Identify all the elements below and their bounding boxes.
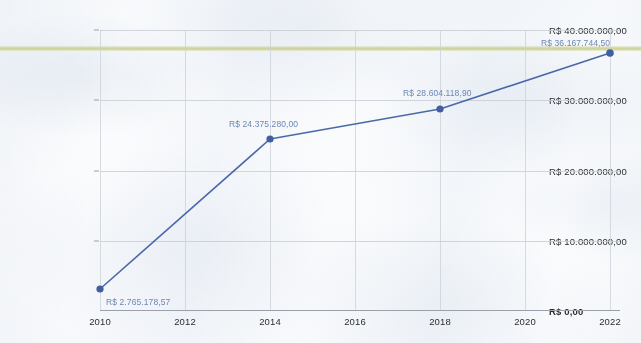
- data-point-2014[interactable]: [266, 135, 273, 142]
- x-axis-tick-label-2022: 2022: [599, 316, 621, 327]
- data-label-2014: R$ 24.375.280,00: [229, 119, 298, 129]
- x-axis-tick-label-2016: 2016: [344, 316, 366, 327]
- data-point-2022[interactable]: [606, 49, 614, 57]
- x-axis-tick-label-2014: 2014: [259, 316, 281, 327]
- data-label-2018: R$ 28.604.118,90: [403, 88, 472, 98]
- data-label-2022: R$ 36.167.744,50: [541, 38, 610, 48]
- data-series-layer: [0, 0, 641, 343]
- data-point-2018[interactable]: [436, 105, 443, 112]
- series-line-valor: [100, 53, 610, 289]
- x-axis-tick-label-2012: 2012: [174, 316, 196, 327]
- x-axis-tick-label-2010: 2010: [89, 316, 111, 327]
- x-axis-tick-label-2020: 2020: [514, 316, 536, 327]
- data-point-2010[interactable]: [96, 285, 103, 292]
- x-axis-tick-label-2018: 2018: [429, 316, 451, 327]
- line-chart: R$ 40.000.000,00 R$ 30.000.000,00 R$ 20.…: [0, 0, 641, 343]
- data-label-2010: R$ 2.765.178,57: [106, 297, 170, 307]
